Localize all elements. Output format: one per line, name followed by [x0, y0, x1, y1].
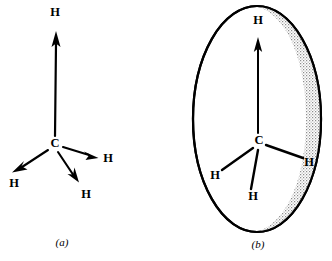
atom-label-h-left-b: H	[210, 168, 220, 182]
atom-label-h-top-a: H	[50, 5, 60, 19]
bond-arrow-right	[63, 147, 99, 160]
atom-label-carbon-a: C	[50, 136, 59, 150]
atom-label-h-right-a: H	[103, 151, 113, 165]
atom-label-h-left-a: H	[9, 176, 19, 190]
methane-orbital-figure: H H H H C (a)	[0, 0, 332, 261]
bond-arrow-down-center	[58, 152, 79, 183]
atom-label-h-bottom-a: H	[81, 187, 91, 201]
panel-caption-b: (b)	[252, 238, 265, 251]
figure-canvas: H H H H C (a)	[0, 0, 332, 261]
panel-b: H H H H C (b)	[193, 6, 321, 251]
bond-arrow-up	[52, 31, 61, 136]
bond-arrow-down-left	[12, 150, 48, 173]
panel-a: H H H H C (a)	[9, 5, 113, 249]
atom-label-h-right-b: H	[304, 155, 314, 169]
atom-label-h-top-b: H	[253, 13, 263, 27]
atom-label-carbon-b: C	[254, 133, 263, 147]
panel-caption-a: (a)	[56, 236, 69, 249]
atom-label-h-bottom-b: H	[248, 189, 258, 203]
